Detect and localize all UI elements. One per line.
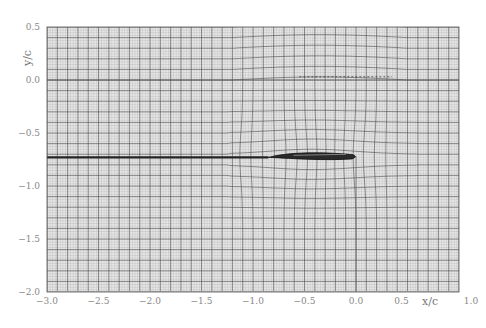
x-axis-ticks: −3.0−2.5−2.0−1.5−1.0−0.50.00.51.0	[36, 296, 478, 306]
x-tick-label: −3.0	[36, 296, 58, 306]
plot-area	[47, 24, 459, 292]
x-tick-label: −1.0	[242, 296, 264, 306]
mesh-chart: −3.0−2.5−2.0−1.5−1.0−0.50.00.51.0 0.50.0…	[0, 0, 486, 328]
y-tick-label: 0.0	[26, 75, 41, 85]
x-tick-label: 0.0	[349, 296, 364, 306]
y-tick-label: −0.5	[18, 128, 40, 138]
y-tick-label: −1.0	[18, 181, 40, 191]
y-tick-label: −2.0	[18, 287, 40, 297]
x-tick-label: 1.0	[464, 296, 479, 306]
x-tick-label: −1.5	[191, 296, 213, 306]
y-axis-label: y/c	[21, 50, 34, 67]
x-tick-label: −2.0	[139, 296, 161, 306]
x-tick-label: −2.5	[88, 296, 110, 306]
x-axis-label: x/c	[422, 295, 438, 308]
x-tick-label: 0.5	[394, 296, 409, 306]
x-tick-label: −0.5	[294, 296, 316, 306]
y-tick-label: −1.5	[18, 234, 40, 244]
y-tick-label: 0.5	[26, 22, 41, 32]
